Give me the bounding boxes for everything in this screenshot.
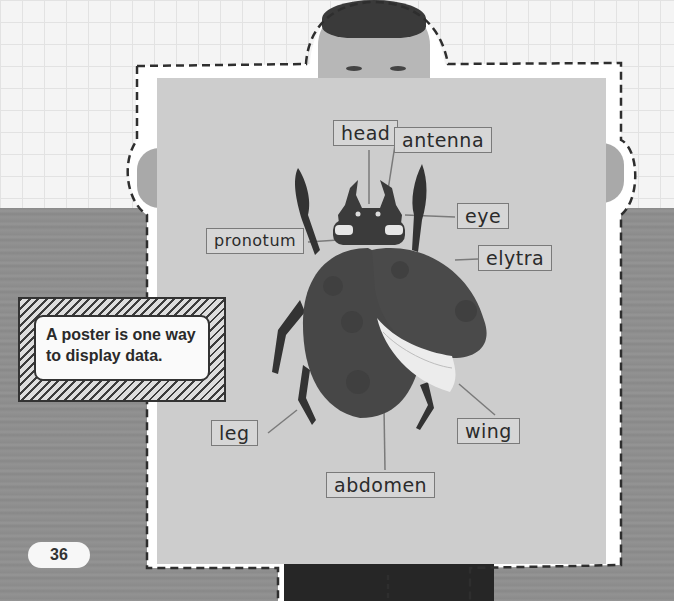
- label-pronotum: pronotum: [206, 228, 304, 254]
- label-head: head: [333, 120, 398, 146]
- label-antenna: antenna: [394, 127, 492, 153]
- page-number: 36: [28, 542, 90, 568]
- label-abdomen: abdomen: [326, 472, 435, 498]
- beetle-eye-right: [385, 225, 403, 235]
- label-elytra: elytra: [478, 245, 552, 271]
- caption-text: A poster is one way to display data.: [34, 315, 210, 381]
- label-leg: leg: [211, 420, 258, 446]
- beetle-eye-left: [335, 225, 353, 235]
- label-eye: eye: [457, 203, 509, 229]
- label-wing: wing: [457, 418, 520, 444]
- caption-frame: A poster is one way to display data.: [18, 297, 226, 402]
